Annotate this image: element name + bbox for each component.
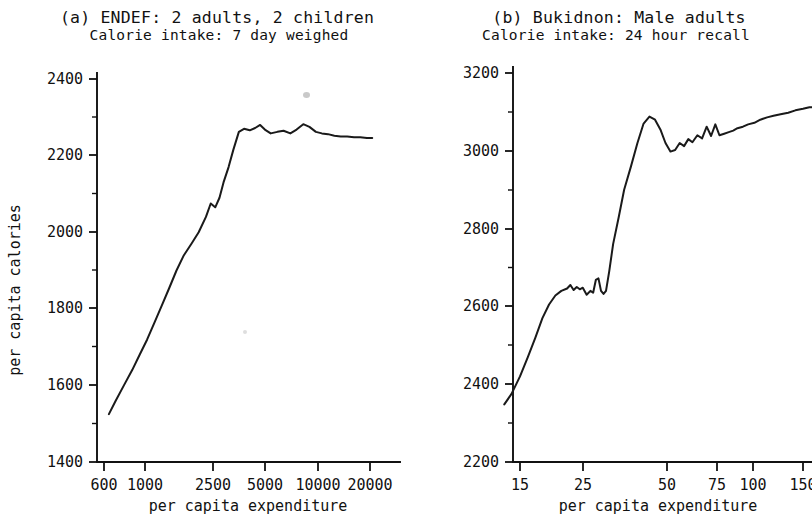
- x-axis-title: per capita expenditure: [559, 497, 758, 515]
- x-tick-label: 10000: [295, 476, 340, 494]
- data-curve: [504, 107, 812, 404]
- x-tick-label: 100: [739, 476, 766, 494]
- y-tick-label: 2800: [463, 220, 499, 238]
- y-tick-label: 1400: [47, 453, 83, 471]
- x-tick-label: 75: [708, 476, 726, 494]
- y-tick-label: 2400: [463, 375, 499, 393]
- x-tick-label: 25: [574, 476, 592, 494]
- y-tick-label: 2400: [47, 70, 83, 88]
- x-tick-label: 2500: [195, 476, 231, 494]
- chart-panel-b: (b) Bukidnon: Male adults Calorie intake…: [420, 0, 812, 530]
- scan-artifact-speck: [303, 92, 310, 98]
- x-tick-label: 15: [511, 476, 529, 494]
- chart-panel-a: (a) ENDEF: 2 adults, 2 children Calorie …: [0, 0, 420, 530]
- y-tick-label: 3200: [463, 64, 499, 82]
- scan-artifact-speck: [243, 330, 247, 334]
- y-tick-label: 2000: [47, 223, 83, 241]
- axis-frame: [513, 67, 812, 462]
- y-tick-label: 1800: [47, 299, 83, 317]
- axis-frame: [97, 73, 400, 462]
- panel-a-plot: 1400160018002000220024006001000250050001…: [0, 0, 420, 530]
- data-curve: [109, 124, 372, 414]
- x-tick-label: 600: [90, 476, 117, 494]
- y-tick-label: 3000: [463, 142, 499, 160]
- y-tick-label: 1600: [47, 376, 83, 394]
- y-tick-label: 2200: [47, 146, 83, 164]
- x-tick-label: 50: [658, 476, 676, 494]
- figure-container: (a) ENDEF: 2 adults, 2 children Calorie …: [0, 0, 812, 530]
- y-tick-label: 2200: [463, 453, 499, 471]
- x-tick-label: 1000: [127, 476, 163, 494]
- x-axis-title: per capita expenditure: [149, 497, 348, 515]
- x-tick-label: 20000: [347, 476, 392, 494]
- y-axis-title: per capita calories: [6, 204, 24, 376]
- x-tick-label: 150: [789, 476, 812, 494]
- panel-b-plot: 22002400260028003000320015255075100150pe…: [420, 0, 812, 530]
- y-tick-label: 2600: [463, 297, 499, 315]
- x-tick-label: 5000: [247, 476, 283, 494]
